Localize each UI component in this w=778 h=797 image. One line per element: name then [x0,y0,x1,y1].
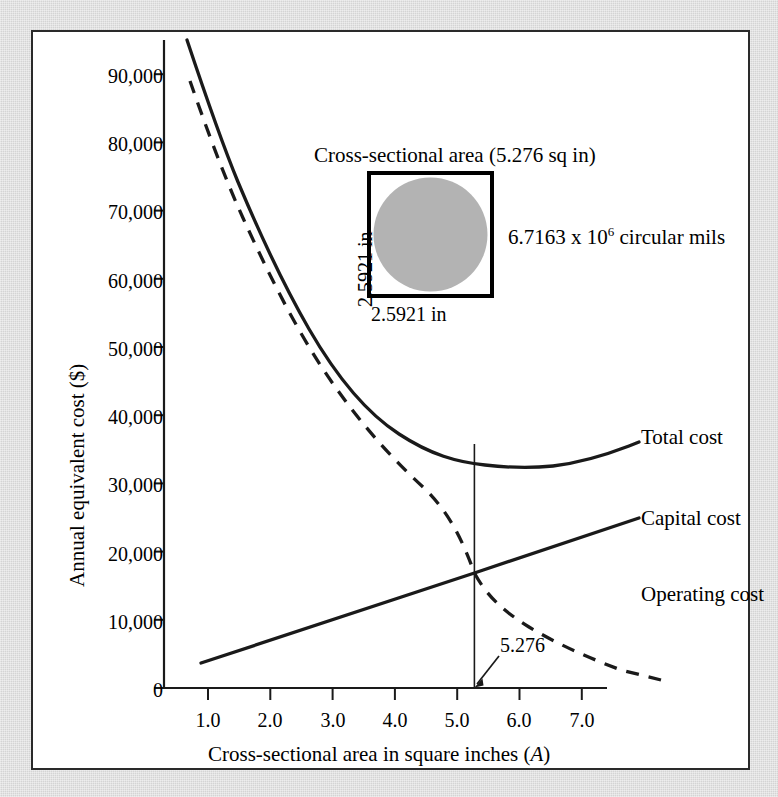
inset-title: Cross-sectional area (5.276 sq in) [314,145,596,166]
x-axis-title: Cross-sectional area in square inches (A… [208,744,550,765]
inset-circle [374,178,488,292]
y-tick-label-80000: 80,000 [43,134,163,154]
optimum-value-label: 5.276 [500,635,545,655]
x-axis-ticks [208,688,582,700]
figure-frame: 0 10,000 20,000 30,000 40,000 50,000 60,… [31,30,750,770]
total-cost-label: Total cost [641,427,723,448]
x-tick-label-5: 5.0 [432,710,482,730]
inset-circular-mils-label: 6.7163 x 106 circular mils [508,227,725,248]
x-axis-title-text: Cross-sectional area in square inches ( [208,742,530,766]
y-axis-title: Annual equivalent cost ($) [67,364,88,587]
y-tick-label-20000: 20,000 [43,544,163,564]
x-tick-label-1: 1.0 [183,710,233,730]
x-tick-label-7: 7.0 [557,710,607,730]
capital-cost-curve [201,518,639,663]
y-tick-label-10000: 10,000 [43,612,163,632]
inset-left-dimension-label: 2.5921 in [355,231,375,307]
operating-cost-label: Operating cost [641,584,764,605]
y-tick-label-0: 0 [73,680,163,700]
x-tick-label-2: 2.0 [245,710,295,730]
capital-cost-label: Capital cost [641,508,741,529]
y-axis-ticks [154,74,164,688]
inset-mils-suffix: circular mils [614,225,725,249]
inset-bottom-dimension-label: 2.5921 in [371,304,447,324]
y-tick-label-90000: 90,000 [43,66,163,86]
x-axis-title-variable: A [530,742,543,766]
x-axis-title-close: ) [543,742,550,766]
x-tick-label-6: 6.0 [494,710,544,730]
y-tick-label-40000: 40,000 [43,407,163,427]
x-tick-label-4: 4.0 [370,710,420,730]
x-tick-label-3: 3.0 [308,710,358,730]
y-tick-label-70000: 70,000 [43,202,163,222]
optimum-annotation-arrow-head [475,679,484,688]
y-tick-label-50000: 50,000 [43,339,163,359]
y-tick-label-30000: 30,000 [43,475,163,495]
inset-mils-prefix: 6.7163 x 10 [508,225,608,249]
optimum-annotation-arrow-shaft [477,656,499,684]
y-tick-label-60000: 60,000 [43,271,163,291]
